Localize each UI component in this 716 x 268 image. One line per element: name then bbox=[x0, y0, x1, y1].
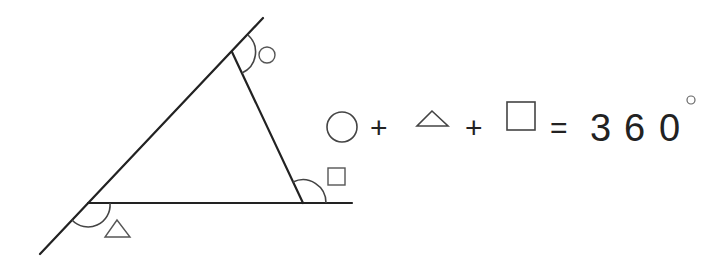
digit-0: 0 bbox=[659, 107, 680, 149]
degree-symbol-icon bbox=[687, 96, 695, 104]
equals-sign: = bbox=[550, 111, 568, 144]
plus-sign-2: + bbox=[465, 111, 483, 144]
extended-side-line bbox=[40, 18, 263, 254]
equation: + + = 3 6 0 bbox=[327, 96, 695, 149]
triangle-angle-symbol-icon bbox=[105, 220, 130, 237]
exterior-angle-diagram: + + = 3 6 0 bbox=[0, 0, 716, 268]
top-angle-arc bbox=[242, 35, 256, 73]
right-side-line bbox=[232, 52, 303, 203]
triangle-figure bbox=[40, 18, 352, 254]
digit-3: 3 bbox=[590, 107, 611, 149]
plus-sign-1: + bbox=[370, 111, 388, 144]
equation-square-icon bbox=[507, 102, 535, 130]
digit-6: 6 bbox=[624, 107, 645, 149]
equation-circle-icon bbox=[327, 112, 357, 142]
square-angle-symbol-icon bbox=[328, 168, 345, 185]
equation-triangle-icon bbox=[417, 111, 448, 126]
circle-angle-symbol-icon bbox=[259, 47, 275, 63]
